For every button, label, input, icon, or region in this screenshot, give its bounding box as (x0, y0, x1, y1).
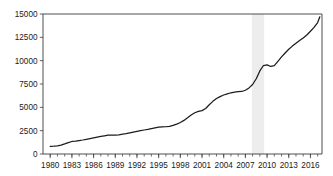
series-line-1 (50, 17, 320, 147)
x-tick-label: 1980 (41, 161, 60, 170)
x-tick-label: 2007 (236, 161, 255, 170)
y-tick-label: 12500 (15, 33, 38, 42)
series-group (50, 17, 320, 147)
recession-band-group (252, 14, 264, 154)
x-tick-label: 1983 (63, 161, 82, 170)
x-axis-major-ticks (50, 154, 310, 158)
y-tick-label: 2500 (19, 127, 38, 136)
x-tick-label: 1998 (171, 161, 190, 170)
y-tick-label: 7500 (19, 80, 38, 89)
recession-shading (252, 14, 264, 154)
x-tick-label: 2001 (193, 161, 212, 170)
x-tick-label: 1995 (150, 161, 169, 170)
x-tick-label: 1992 (128, 161, 147, 170)
x-axis-tick-labels: 1980198319861989199219951998200120042007… (41, 161, 320, 170)
line-chart: 0250050007500100001250015000 19801983198… (0, 0, 333, 176)
y-tick-label: 15000 (15, 10, 38, 19)
x-tick-label: 2010 (258, 161, 277, 170)
y-tick-label: 5000 (19, 103, 38, 112)
y-tick-label: 0 (33, 150, 38, 159)
plot-frame (43, 14, 322, 154)
x-tick-label: 1989 (106, 161, 125, 170)
x-tick-label: 1986 (84, 161, 103, 170)
y-axis-ticks (40, 14, 43, 154)
y-axis-tick-labels: 0250050007500100001250015000 (15, 10, 38, 159)
x-tick-label: 2016 (301, 161, 320, 170)
x-tick-label: 2013 (280, 161, 299, 170)
chart-container: 0250050007500100001250015000 19801983198… (0, 0, 333, 176)
y-tick-label: 10000 (15, 57, 38, 66)
x-tick-label: 2004 (215, 161, 234, 170)
